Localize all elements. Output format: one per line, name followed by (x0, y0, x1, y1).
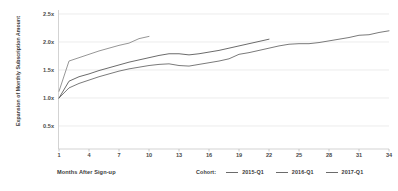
chart-legend: Cohort: 2015-Q1 2016-Q1 2017-Q1 (196, 169, 375, 175)
legend-item-2017-q1[interactable]: 2017-Q1 (326, 169, 364, 175)
series-line-2017-q1 (59, 36, 149, 91)
plot-area (0, 0, 398, 191)
series-line-2015-q1 (59, 31, 389, 98)
x-tick-label: 28 (319, 152, 339, 158)
x-tick-label: 1 (49, 152, 69, 158)
x-tick-label: 19 (229, 152, 249, 158)
x-tick-label: 7 (109, 152, 129, 158)
x-tick-label: 25 (289, 152, 309, 158)
series-line-2016-q1 (59, 39, 269, 98)
x-tick-label: 31 (349, 152, 369, 158)
legend-title: Cohort: (196, 169, 216, 175)
x-tick-label: 34 (379, 152, 398, 158)
legend-line-swatch-icon (226, 172, 238, 173)
chart-container: Expansion of Monthly Subscription Amount… (0, 0, 398, 191)
x-axis-title: Months After Sign-up (57, 169, 116, 175)
x-tick-label: 4 (79, 152, 99, 158)
legend-line-swatch-icon (326, 172, 338, 173)
legend-item-2016-q1[interactable]: 2016-Q1 (276, 169, 314, 175)
legend-label: 2016-Q1 (292, 169, 314, 175)
x-tick-label: 22 (259, 152, 279, 158)
legend-label: 2017-Q1 (342, 169, 364, 175)
legend-item-2015-q1[interactable]: 2015-Q1 (226, 169, 264, 175)
legend-label: 2015-Q1 (242, 169, 264, 175)
x-tick-label: 13 (169, 152, 189, 158)
series-lines (59, 31, 389, 98)
gridlines (59, 14, 389, 126)
x-tick-label: 16 (199, 152, 219, 158)
x-tick-label: 10 (139, 152, 159, 158)
legend-line-swatch-icon (276, 172, 288, 173)
